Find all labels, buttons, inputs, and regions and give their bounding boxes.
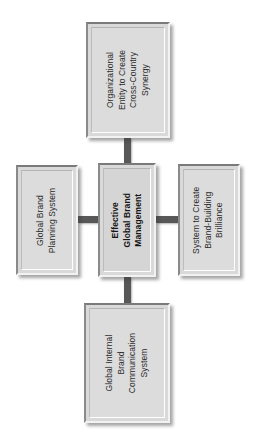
node-label-line: System xyxy=(138,333,150,393)
node-label-line: Communication xyxy=(127,333,139,393)
node-label-line: Synergy xyxy=(140,50,152,110)
node-label-line: Entity to Create xyxy=(117,50,129,110)
node-label-line: Organizational xyxy=(105,50,117,110)
node-label-line: Management xyxy=(133,193,145,248)
diagram-canvas: Organizational Entity to Create Cross-Co… xyxy=(0,0,255,448)
node-global-internal-brand-communication-system-label: Global Internal Brand Communication Syst… xyxy=(104,333,150,393)
node-global-brand-planning-system-label: Global Brand Planning System xyxy=(36,187,59,252)
node-global-brand-planning-system-body: Global Brand Planning System xyxy=(21,170,73,270)
node-label-line: Brilliance xyxy=(215,186,227,253)
connector-center-to-top xyxy=(124,138,131,164)
node-organizational-entity-body: Organizational Entity to Create Cross-Co… xyxy=(91,27,165,133)
node-label-line: Global Brand xyxy=(36,187,48,252)
node-label-line: Effective xyxy=(110,193,122,248)
connector-center-to-right xyxy=(156,216,179,223)
node-system-to-create-brand-building-brilliance-label: System to Create Brand-Building Brillian… xyxy=(192,186,227,253)
node-label-line: Cross-Country xyxy=(128,50,140,110)
node-label-line: Global Brand xyxy=(121,193,133,248)
node-label-line: Global Internal xyxy=(104,333,116,393)
node-global-internal-brand-communication-system[interactable]: Global Internal Brand Communication Syst… xyxy=(84,303,170,423)
node-global-brand-planning-system[interactable]: Global Brand Planning System xyxy=(16,165,78,275)
connector-center-to-left xyxy=(78,216,99,223)
node-label-line: Planning System xyxy=(47,187,59,252)
node-system-to-create-brand-building-brilliance-body: System to Create Brand-Building Brillian… xyxy=(183,169,235,271)
node-organizational-entity[interactable]: Organizational Entity to Create Cross-Co… xyxy=(86,22,170,138)
node-label-line: Brand-Building xyxy=(203,186,215,253)
node-organizational-entity-label: Organizational Entity to Create Cross-Co… xyxy=(105,50,151,110)
node-system-to-create-brand-building-brilliance[interactable]: System to Create Brand-Building Brillian… xyxy=(178,164,240,276)
node-effective-global-brand-management-body: Effective Global Brand Management xyxy=(103,168,151,272)
node-label-line: System to Create xyxy=(192,186,204,253)
connector-center-to-bottom xyxy=(124,277,131,304)
node-effective-global-brand-management[interactable]: Effective Global Brand Management xyxy=(98,163,156,277)
node-effective-global-brand-management-label: Effective Global Brand Management xyxy=(110,193,145,248)
node-global-internal-brand-communication-system-body: Global Internal Brand Communication Syst… xyxy=(89,308,165,418)
node-label-line: Brand xyxy=(115,333,127,393)
